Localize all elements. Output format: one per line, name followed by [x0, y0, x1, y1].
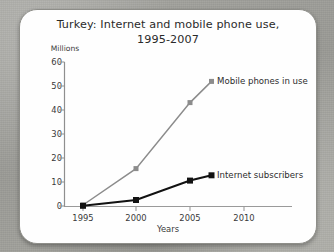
x-axis-title: Years	[20, 224, 316, 234]
x-tick-label-1995: 1995	[63, 213, 103, 223]
x-tick-label-2005: 2005	[170, 213, 210, 223]
x-axis-tick-labels: 1995 2000 2005 2010	[20, 10, 316, 243]
series-label-internet-subscribers: Internet subscribers	[217, 170, 303, 180]
screenshot-canvas: Turkey: Internet and mobile phone use, 1…	[0, 0, 334, 252]
chart-card: Turkey: Internet and mobile phone use, 1…	[19, 9, 317, 244]
x-tick-label-2000: 2000	[116, 213, 156, 223]
series-label-mobile-phones: Mobile phones in use	[217, 76, 308, 86]
x-tick-label-2010: 2010	[224, 213, 264, 223]
